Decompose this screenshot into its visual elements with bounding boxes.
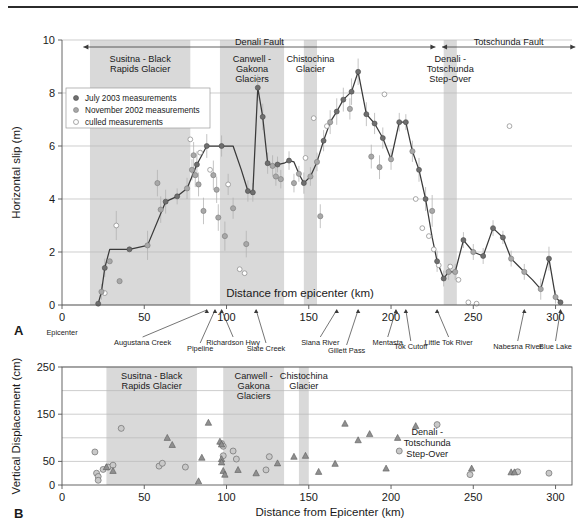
data-point-circle	[182, 464, 188, 470]
fault-span-arrow	[570, 44, 575, 49]
data-point-culled	[431, 247, 436, 252]
data-point-jul2003	[441, 276, 446, 281]
data-point-jul2003	[481, 253, 486, 258]
fault-span-arrow	[430, 44, 435, 49]
y-tick-label: 6	[49, 140, 55, 152]
data-point-jul2003	[546, 256, 551, 261]
annotation-label: Denali -	[411, 427, 443, 437]
data-point-nov2002	[278, 177, 283, 182]
figure-root: Denali FaultTotschunda FaultSusitna - Bl…	[0, 0, 586, 531]
data-point-culled	[242, 271, 247, 276]
data-point-nov2002	[214, 187, 219, 192]
data-point-triangle	[394, 434, 400, 440]
data-point-jul2003	[417, 167, 422, 172]
data-point-triangle	[291, 453, 297, 459]
data-point-culled	[114, 223, 119, 228]
band-caption: Glaciers	[235, 74, 269, 84]
data-point-triangle	[413, 423, 419, 429]
legend-marker-culled	[74, 120, 79, 125]
band-caption: Susitna - Black	[110, 54, 172, 64]
data-point-jul2003	[435, 259, 440, 264]
site-label: Little Tok River	[424, 338, 473, 347]
data-point-jul2003	[219, 144, 224, 149]
panel-a-plot: Denali FaultTotschunda FaultSusitna - Bl…	[0, 14, 586, 349]
band-caption: Canwell -	[235, 371, 273, 381]
data-point-circle	[263, 467, 269, 473]
panel-b: Susitna - BlackRapids GlacierCanwell -Ga…	[0, 355, 586, 531]
data-point-culled	[198, 150, 203, 155]
x-tick-label: 0	[59, 311, 65, 323]
band-caption: Chistochina	[280, 371, 329, 381]
x-tick-label: 50	[138, 491, 150, 503]
annotation-label: Step-Over	[406, 449, 448, 459]
panel-b-plot: Susitna - BlackRapids GlacierCanwell -Ga…	[0, 355, 586, 531]
y-tick-label: 0	[49, 299, 55, 311]
data-point-jul2003	[127, 247, 132, 252]
y-tick-label: 0	[49, 479, 55, 491]
data-point-nov2002	[107, 259, 112, 264]
data-point-jul2003	[275, 162, 280, 167]
fault-span-arrow	[83, 44, 88, 49]
annotation-label: Totschunda	[404, 438, 452, 448]
data-point-jul2003	[265, 161, 270, 166]
data-point-circle	[230, 448, 236, 454]
x-tick-label: 150	[300, 311, 318, 323]
data-point-jul2003	[341, 97, 346, 102]
site-label: Nabesna River	[493, 342, 542, 351]
data-point-nov2002	[446, 269, 451, 274]
site-leader-arrow	[347, 310, 359, 345]
site-arrow-head	[435, 309, 439, 313]
y-tick-label: 4	[49, 193, 55, 205]
site-leader-arrow	[320, 310, 336, 337]
data-point-circle	[118, 425, 124, 431]
data-point-nov2002	[117, 279, 122, 284]
data-point-nov2002	[145, 243, 150, 248]
data-point-nov2002	[377, 165, 382, 170]
band-caption: Chistochina	[286, 54, 335, 64]
site-arrow-head	[404, 309, 408, 313]
band-caption: Glacier	[296, 64, 325, 74]
site-label: Blue Lake	[539, 342, 572, 351]
site-arrow-head	[254, 309, 258, 313]
data-point-culled	[448, 264, 453, 269]
data-point-jul2003	[255, 85, 260, 90]
data-point-jul2003	[364, 112, 369, 117]
data-point-jul2003	[397, 120, 402, 125]
data-point-culled	[303, 156, 308, 161]
data-point-jul2003	[163, 199, 168, 204]
data-point-triangle	[342, 420, 348, 426]
data-point-jul2003	[245, 189, 250, 194]
data-point-nov2002	[410, 149, 415, 154]
data-point-culled	[507, 124, 512, 129]
data-point-culled	[413, 197, 418, 202]
legend-label-culled: culled measurements	[85, 118, 163, 127]
site-label: Gillett Pass	[328, 346, 366, 355]
data-point-nov2002	[230, 206, 235, 211]
data-point-jul2003	[349, 89, 354, 94]
data-point-culled	[382, 92, 387, 97]
site-leader-arrow	[518, 310, 525, 341]
data-point-jul2003	[287, 158, 292, 163]
data-point-nov2002	[553, 294, 558, 299]
legend-label-july: July 2003 measurements	[85, 94, 176, 103]
x-tick-label: 0	[59, 491, 65, 503]
data-point-nov2002	[191, 153, 196, 158]
panel-id: B	[14, 506, 23, 521]
data-point-nov2002	[99, 289, 104, 294]
data-point-nov2002	[347, 106, 352, 111]
panel-a: Denali FaultTotschunda FaultSusitna - Bl…	[0, 14, 586, 349]
data-point-nov2002	[296, 171, 301, 176]
band-caption: Totschunda	[427, 64, 475, 74]
data-point-nov2002	[158, 207, 163, 212]
data-point-culled	[188, 137, 193, 142]
band-caption: Rapids Glacier	[122, 381, 182, 391]
y-tick-label: 50	[43, 455, 55, 467]
data-point-nov2002	[184, 186, 189, 191]
x-tick-label: 250	[464, 311, 482, 323]
site-leader-arrow	[143, 310, 207, 337]
legend-label-nov: November 2002 measurements	[85, 106, 200, 115]
data-point-nov2002	[201, 208, 206, 213]
data-point-circle	[95, 477, 101, 483]
data-point-circle	[467, 472, 473, 478]
data-point-culled	[208, 167, 213, 172]
